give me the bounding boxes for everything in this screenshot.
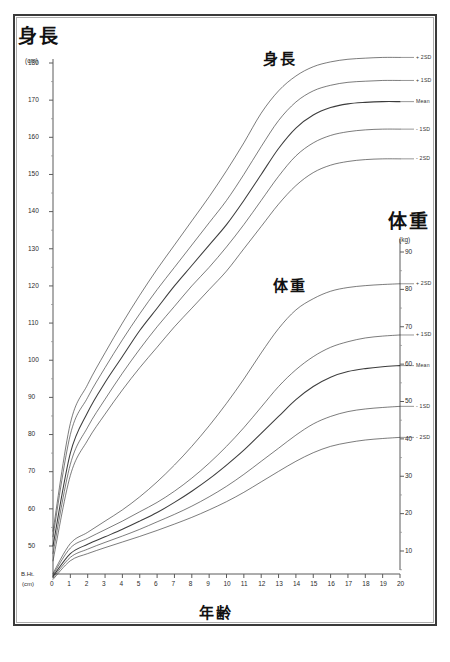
sd-label-体重-4: - 2SD: [416, 435, 430, 440]
left-axis-tick-label: 90: [28, 394, 35, 401]
bottom-axis-tick-label: 7: [171, 581, 175, 588]
baseline-height-label: B.Ht.: [21, 571, 34, 577]
left-axis-tick-label: 60: [28, 506, 35, 513]
sd-label-体重-3: - 1SD: [416, 404, 430, 409]
curve-体重-2SD: [53, 284, 400, 574]
bottom-axis-tick-label: 3: [102, 581, 106, 588]
sd-label-身長-4: - 2SD: [416, 156, 430, 161]
x-axis-title: 年齢: [199, 605, 233, 620]
curve-体重-1SD: [53, 406, 400, 578]
left-axis-tick-label: 120: [28, 283, 39, 290]
bottom-axis-tick-label: 16: [328, 581, 335, 588]
bottom-axis-tick-label: 1: [67, 581, 71, 588]
bottom-axis-tick-label: 14: [293, 581, 300, 588]
chart-plot-area: [0, 0, 450, 662]
bottom-axis-tick-label: 18: [362, 581, 369, 588]
sd-label-身長-3: - 1SD: [416, 127, 430, 132]
left-axis-tick-label: 80: [28, 431, 35, 438]
page-title-height: 身長: [18, 27, 60, 46]
left-axis-tick-label: 110: [28, 320, 38, 327]
curve-身長-2SD: [53, 57, 400, 531]
bottom-axis-tick-label: 8: [189, 581, 193, 588]
left-axis-tick-label: 170: [28, 97, 39, 104]
bottom-axis-tick-label: 9: [206, 581, 210, 588]
sd-label-体重-1: + 1SD: [416, 332, 432, 337]
sd-label-体重-0: + 2SD: [416, 281, 432, 286]
chart-curves-svg: [0, 0, 450, 662]
baseline-height-unit: (cm): [22, 581, 34, 587]
bottom-axis-tick-label: 19: [380, 581, 387, 588]
sd-label-身長-2: Mean: [416, 99, 430, 104]
bottom-axis-tick-label: 2: [85, 581, 89, 588]
bottom-axis-tick-label: 13: [276, 581, 283, 588]
right-axis-tick-label: 50: [405, 398, 412, 405]
left-axis-tick-label: 140: [28, 208, 39, 215]
right-axis-tick-label: 90: [405, 249, 412, 256]
left-axis-tick-label: 150: [28, 171, 39, 178]
curve-身長-1SD: [53, 129, 400, 553]
sd-label-体重-2: Mean: [416, 363, 430, 368]
growth-chart-page: 身長 体重 身長 体重 年齢 (cm) (kg) B.Ht. (cm) 1801…: [0, 0, 450, 662]
curve-group-label-height: 身長: [263, 51, 297, 66]
left-axis-tick-label: 100: [28, 357, 39, 364]
curve-身長-Mean: [53, 102, 400, 546]
left-axis-tick-label: 50: [28, 543, 35, 550]
curve-体重-1SD: [53, 335, 400, 575]
curve-体重-Mean: [53, 366, 400, 577]
left-axis-tick-label: 70: [28, 468, 35, 475]
curve-身長-1SD: [53, 80, 400, 536]
bottom-axis-tick-label: 15: [310, 581, 317, 588]
bottom-axis-tick-label: 12: [258, 581, 265, 588]
sd-label-身長-0: + 2SD: [416, 55, 432, 60]
bottom-axis-tick-label: 20: [397, 581, 404, 588]
page-title-weight: 体重: [388, 212, 430, 231]
curve-体重-2SD: [53, 437, 400, 579]
right-axis-tick-label: 40: [405, 436, 412, 443]
right-axis-tick-label: 30: [405, 473, 412, 480]
right-axis-tick-label: 10: [405, 548, 412, 555]
bottom-axis-tick-label: 10: [224, 581, 231, 588]
sd-label-身長-1: + 1SD: [416, 78, 432, 83]
bottom-axis-tick-label: 5: [137, 581, 141, 588]
bottom-axis-tick-label: 17: [345, 581, 352, 588]
bottom-axis-tick-label: 4: [119, 581, 123, 588]
left-axis-tick-label: 130: [28, 246, 39, 253]
left-axis-tick-label: 160: [28, 134, 39, 141]
right-axis-tick-label: 60: [405, 361, 412, 368]
left-axis-tick-label: 180: [28, 60, 39, 67]
curve-身長-2SD: [53, 159, 400, 561]
bottom-axis-tick-label: 6: [154, 581, 158, 588]
bottom-axis-tick-label: 11: [241, 581, 248, 588]
right-axis-tick-label: 20: [405, 510, 412, 517]
curve-group-label-weight: 体重: [273, 278, 307, 293]
right-axis-tick-label: 70: [405, 324, 412, 331]
right-axis-tick-label: 80: [405, 286, 412, 293]
bottom-axis-tick-label: 0: [50, 581, 54, 588]
right-axis-unit: (kg): [399, 237, 410, 244]
